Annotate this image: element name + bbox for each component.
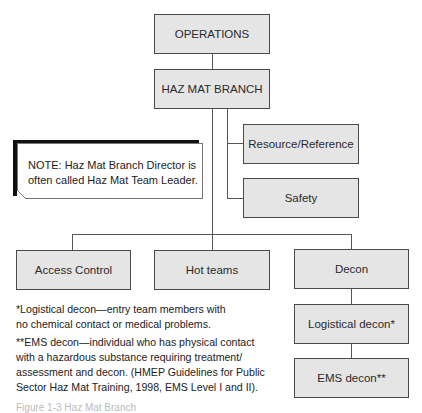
connector-operations-branch [212, 54, 213, 69]
footnote-logistical-line-1: *Logistical decon—entry team members wit… [16, 302, 226, 317]
footnote-ems-decon: **EMS decon—individual who has physical … [16, 335, 265, 395]
footnote-ems-line-2: with a hazardous substance requiring tre… [16, 350, 265, 365]
node-resource-reference-label: Resource/Reference [248, 138, 353, 150]
footnote-logistical-line-2: no chemical contact or medical problems. [16, 317, 226, 332]
node-ems-decon: EMS decon** [294, 358, 409, 398]
connector-staff-resource [227, 143, 243, 144]
connector-branch-staff-trunk [227, 109, 228, 199]
connector-logistical-ems [351, 343, 352, 358]
node-operations: OPERATIONS [154, 14, 270, 54]
node-access-control: Access Control [16, 250, 131, 290]
node-safety-label: Safety [285, 192, 318, 204]
node-hot-teams-label: Hot teams [186, 264, 238, 276]
node-resource-reference: Resource/Reference [243, 124, 359, 164]
node-operations-label: OPERATIONS [175, 28, 250, 40]
connector-staff-safety [227, 198, 243, 199]
footnote-ems-line-1: **EMS decon—individual who has physical … [16, 335, 265, 350]
figure-caption: Figure 1-3 Haz Mat Branch [16, 402, 136, 413]
node-decon: Decon [294, 249, 409, 289]
connector-branch-main-trunk [212, 109, 213, 250]
node-ems-decon-label: EMS decon** [317, 372, 385, 384]
node-haz-mat-branch-label: HAZ MAT BRANCH [161, 83, 262, 95]
node-logistical-decon: Logistical decon* [294, 304, 409, 344]
connector-groups-horizontal [72, 234, 352, 235]
node-decon-label: Decon [335, 263, 368, 275]
node-safety: Safety [243, 178, 359, 218]
node-hot-teams: Hot teams [154, 250, 270, 290]
footnote-logistical-decon: *Logistical decon—entry team members wit… [16, 302, 226, 332]
connector-decon [351, 234, 352, 249]
note-line-1: NOTE: Haz Mat Branch Director is [28, 158, 198, 173]
footnote-ems-line-4: Sector Haz Mat Training, 1998, EMS Level… [16, 380, 265, 395]
node-access-control-label: Access Control [35, 264, 112, 276]
note-line-2: often called Haz Mat Team Leader. [28, 173, 198, 188]
node-haz-mat-branch: HAZ MAT BRANCH [154, 69, 270, 109]
connector-decon-logistical [351, 288, 352, 304]
footnote-ems-line-3: assessment and decon. (HMEP Guidelines f… [16, 365, 265, 380]
note-text: NOTE: Haz Mat Branch Director is often c… [28, 158, 198, 188]
connector-access-control [72, 234, 73, 250]
note-callout: NOTE: Haz Mat Branch Director is often c… [17, 143, 203, 199]
node-logistical-decon-label: Logistical decon* [308, 318, 395, 330]
note-folded-corner-icon [17, 191, 25, 199]
